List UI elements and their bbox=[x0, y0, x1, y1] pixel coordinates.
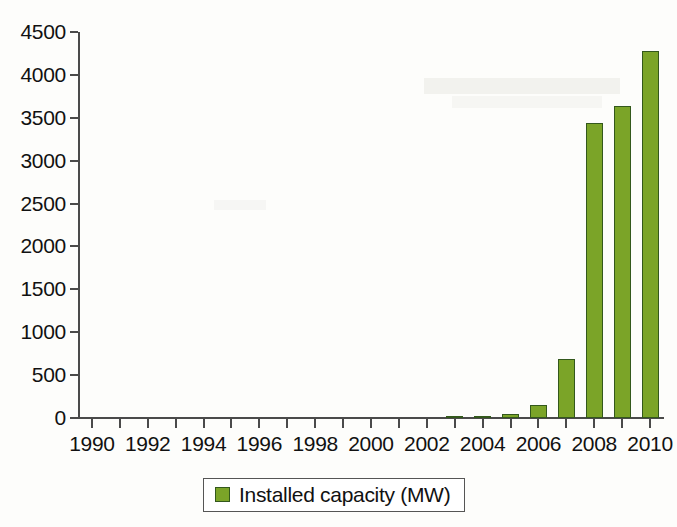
x-axis-tick bbox=[203, 419, 205, 428]
x-axis-tick bbox=[91, 419, 93, 428]
x-axis-tick bbox=[621, 419, 623, 428]
y-axis-tick bbox=[70, 374, 78, 376]
x-axis-tick bbox=[314, 419, 316, 428]
x-axis-tick bbox=[482, 419, 484, 428]
x-axis-label: 2002 bbox=[397, 432, 457, 455]
x-axis-label: 1994 bbox=[174, 432, 234, 455]
chart-legend: Installed capacity (MW) bbox=[203, 478, 465, 512]
x-axis-tick bbox=[454, 419, 456, 428]
y-axis-tick bbox=[70, 203, 78, 205]
y-axis-tick bbox=[70, 245, 78, 247]
x-axis-tick bbox=[649, 419, 651, 428]
x-axis-tick bbox=[147, 419, 149, 428]
y-axis-label: 2000 bbox=[6, 235, 66, 256]
y-axis-label: 500 bbox=[6, 364, 66, 385]
y-axis-label: 1500 bbox=[6, 278, 66, 299]
bar bbox=[502, 414, 519, 418]
plot-area bbox=[78, 32, 664, 418]
y-axis-label: 3000 bbox=[6, 150, 66, 171]
x-axis-tick bbox=[398, 419, 400, 428]
y-axis-tick bbox=[70, 74, 78, 76]
x-axis-label: 1990 bbox=[62, 432, 122, 455]
bar bbox=[446, 416, 463, 419]
y-axis-label: 2500 bbox=[6, 193, 66, 214]
y-axis-tick bbox=[70, 31, 78, 33]
y-axis-label: 4500 bbox=[6, 21, 66, 42]
x-axis-tick bbox=[565, 419, 567, 428]
y-axis-tick bbox=[70, 331, 78, 333]
y-axis-tick bbox=[70, 160, 78, 162]
x-axis-tick bbox=[230, 419, 232, 428]
bar bbox=[530, 405, 547, 418]
x-axis-label: 1996 bbox=[229, 432, 289, 455]
bar bbox=[614, 106, 631, 418]
y-axis-label: 1000 bbox=[6, 321, 66, 342]
x-axis-tick bbox=[342, 419, 344, 428]
x-axis-tick bbox=[119, 419, 121, 428]
x-axis-label: 2000 bbox=[341, 432, 401, 455]
x-axis-tick bbox=[426, 419, 428, 428]
x-axis-tick bbox=[258, 419, 260, 428]
x-axis-tick bbox=[175, 419, 177, 428]
y-axis-label: 4000 bbox=[6, 64, 66, 85]
x-axis-label: 2006 bbox=[508, 432, 568, 455]
bar bbox=[474, 416, 491, 419]
x-axis-tick bbox=[370, 419, 372, 428]
x-axis-tick bbox=[537, 419, 539, 428]
y-axis-label: 0 bbox=[6, 407, 66, 428]
y-axis-tick bbox=[70, 288, 78, 290]
legend-label: Installed capacity (MW) bbox=[239, 484, 450, 505]
x-axis-label: 1998 bbox=[285, 432, 345, 455]
bar bbox=[642, 51, 659, 418]
bar bbox=[586, 123, 603, 418]
y-axis-tick bbox=[70, 117, 78, 119]
x-axis-label: 1992 bbox=[118, 432, 178, 455]
x-axis-label: 2010 bbox=[620, 432, 677, 455]
y-axis-label: 3500 bbox=[6, 107, 66, 128]
y-axis-tick bbox=[70, 417, 78, 419]
legend-swatch-icon bbox=[215, 487, 230, 502]
x-axis-tick bbox=[510, 419, 512, 428]
x-axis-tick bbox=[286, 419, 288, 428]
x-axis-label: 2004 bbox=[453, 432, 513, 455]
bar bbox=[558, 359, 575, 418]
x-axis-label: 2008 bbox=[564, 432, 624, 455]
x-axis-tick bbox=[593, 419, 595, 428]
